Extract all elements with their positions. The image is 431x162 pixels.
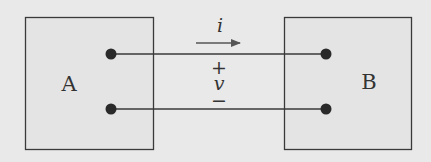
block-b-box xyxy=(285,18,412,150)
terminal-b-top-dot xyxy=(321,49,332,60)
block-b-label: B xyxy=(361,70,376,94)
diagram-canvas: A B i + v − xyxy=(0,0,431,162)
terminal-b-bottom-dot xyxy=(321,104,332,115)
voltage-minus-sign: − xyxy=(211,89,227,111)
block-a-box xyxy=(26,18,154,150)
circuit-diagram: A B i + v − xyxy=(0,0,431,162)
block-a-label: A xyxy=(60,72,77,96)
terminal-a-bottom-dot xyxy=(106,104,117,115)
current-label: i xyxy=(217,14,223,36)
terminal-a-top-dot xyxy=(106,49,117,60)
